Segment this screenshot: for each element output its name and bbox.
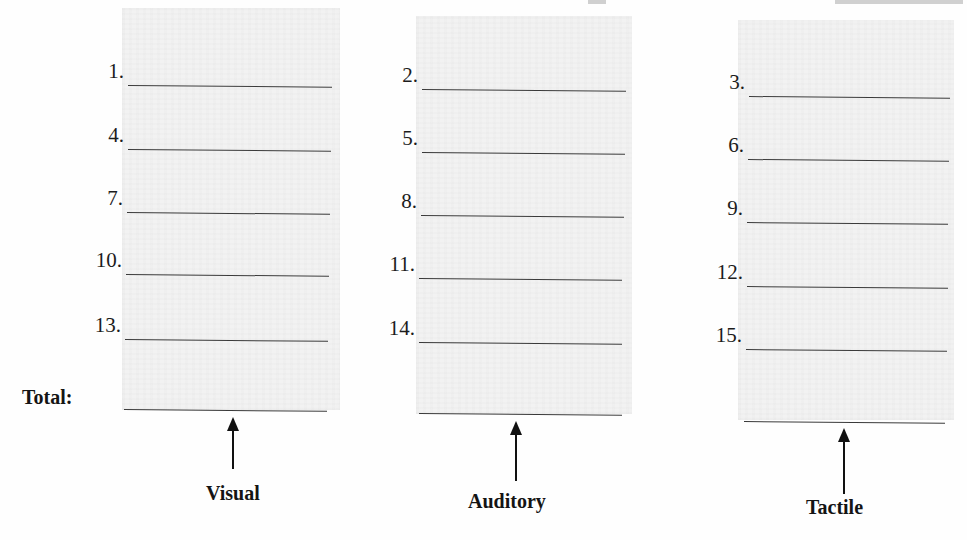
auditory-total[interactable]	[419, 384, 622, 414]
item-number: 5.	[402, 128, 418, 149]
tactile-arrow-icon	[836, 428, 852, 494]
item-number: 9.	[727, 198, 743, 219]
auditory-arrow-icon	[508, 421, 524, 481]
item-number: 1.	[108, 61, 124, 82]
cut-off-header-text	[588, 0, 606, 4]
item-number: 14.	[389, 318, 415, 339]
item-number: 15.	[716, 325, 742, 346]
item-number: 12.	[717, 262, 743, 283]
tactile-item-6[interactable]: 6.	[748, 130, 949, 160]
auditory-item-14[interactable]: 14.	[419, 313, 622, 343]
tactile-item-3[interactable]: 3.	[749, 67, 950, 97]
tactile-total[interactable]	[744, 392, 945, 422]
total-label: Total:	[22, 386, 72, 409]
item-number: 6.	[728, 135, 744, 156]
visual-item-4[interactable]: 4.	[128, 120, 331, 150]
tactile-label: Tactile	[806, 496, 863, 519]
auditory-label: Auditory	[468, 490, 546, 513]
item-number: 4.	[108, 125, 124, 146]
visual-label: Visual	[206, 482, 260, 505]
cut-off-header-text	[835, 0, 963, 4]
visual-item-7[interactable]: 7.	[127, 183, 330, 213]
auditory-item-2[interactable]: 2.	[422, 60, 626, 90]
auditory-item-11[interactable]: 11.	[419, 249, 622, 279]
item-number: 11.	[390, 254, 415, 275]
visual-item-10[interactable]: 10.	[126, 245, 329, 275]
item-number: 10.	[96, 250, 122, 271]
visual-total-line[interactable]	[124, 409, 327, 412]
visual-arrow-icon	[225, 417, 241, 469]
visual-total[interactable]	[124, 380, 327, 410]
auditory-item-5[interactable]: 5.	[422, 123, 625, 153]
item-number: 7.	[107, 188, 123, 209]
tactile-total-line[interactable]	[744, 421, 945, 424]
item-number: 13.	[95, 315, 121, 336]
visual-item-13[interactable]: 13.	[125, 310, 328, 340]
visual-item-1[interactable]: 1.	[128, 56, 332, 86]
auditory-item-8[interactable]: 8.	[421, 186, 624, 216]
item-number: 8.	[401, 191, 417, 212]
tactile-item-9[interactable]: 9.	[747, 193, 948, 223]
tactile-item-12[interactable]: 12.	[747, 257, 948, 287]
item-number: 3.	[729, 72, 745, 93]
item-number: 2.	[402, 65, 418, 86]
worksheet-page: 1. 4. 7. 10. 13. 2. 5. 8. 11. 14.	[0, 0, 967, 540]
auditory-total-line[interactable]	[419, 413, 622, 416]
tactile-item-15[interactable]: 15.	[746, 320, 947, 350]
